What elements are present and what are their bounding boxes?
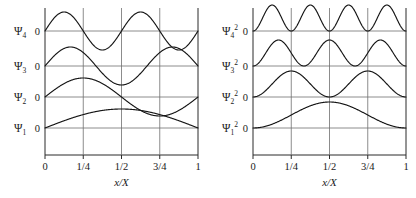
x-tick-label-4: 1: [403, 161, 408, 172]
series-label-Psi_1_squared: Ψ12: [222, 120, 238, 138]
panel-wavefunctions: 01/41/23/41x/XΨ40Ψ30Ψ20Ψ10: [0, 0, 208, 198]
x-tick-label-1: 1/4: [77, 161, 91, 172]
series-label-Psi_4_squared: Ψ42: [222, 23, 238, 41]
x-tick-label-2: 1/2: [323, 161, 336, 172]
plot-area-wavefunctions: 01/41/23/41x/XΨ40Ψ30Ψ20Ψ10: [0, 0, 208, 198]
svg-text:Ψ32: Ψ32: [222, 58, 238, 76]
series-label-Psi_2_squared: Ψ22: [222, 89, 238, 107]
zero-label-Psi_3_squared: 0: [243, 61, 248, 72]
x-tick-label-2: 1/2: [115, 161, 128, 172]
plot-area-probability-densities: 01/41/23/41x/XΨ420Ψ320Ψ220Ψ120: [208, 0, 416, 198]
svg-text:Ψ3: Ψ3: [14, 60, 27, 75]
svg-text:Ψ22: Ψ22: [222, 89, 238, 107]
svg-text:Ψ2: Ψ2: [14, 91, 27, 106]
zero-label-Psi_2: 0: [35, 92, 40, 103]
zero-label-Psi_2_squared: 0: [243, 92, 248, 103]
svg-text:Ψ4: Ψ4: [14, 25, 27, 40]
series-label-Psi_3: Ψ3: [14, 60, 27, 75]
series-label-Psi_1: Ψ1: [14, 122, 27, 137]
series-label-Psi_4: Ψ4: [14, 25, 27, 40]
x-tick-label-0: 0: [42, 161, 47, 172]
zero-label-Psi_1: 0: [35, 123, 40, 134]
x-axis-title: x/X: [113, 176, 130, 188]
x-tick-label-3: 3/4: [361, 161, 375, 172]
svg-text:Ψ12: Ψ12: [222, 120, 238, 138]
x-tick-label-3: 3/4: [153, 161, 167, 172]
wavefunction-figure: 01/41/23/41x/XΨ40Ψ30Ψ20Ψ10 01/41/23/41x/…: [0, 0, 416, 198]
series-label-Psi_3_squared: Ψ32: [222, 58, 238, 76]
zero-label-Psi_4: 0: [35, 26, 40, 37]
zero-label-Psi_3: 0: [35, 61, 40, 72]
svg-text:Ψ1: Ψ1: [14, 122, 27, 137]
x-tick-label-0: 0: [250, 161, 255, 172]
svg-text:Ψ42: Ψ42: [222, 23, 238, 41]
zero-label-Psi_1_squared: 0: [243, 123, 248, 134]
panel-probability-densities: 01/41/23/41x/XΨ420Ψ320Ψ220Ψ120: [208, 0, 416, 198]
x-tick-label-1: 1/4: [285, 161, 299, 172]
series-label-Psi_2: Ψ2: [14, 91, 27, 106]
zero-label-Psi_4_squared: 0: [243, 26, 248, 37]
x-tick-label-4: 1: [195, 161, 200, 172]
x-axis-title: x/X: [321, 176, 338, 188]
